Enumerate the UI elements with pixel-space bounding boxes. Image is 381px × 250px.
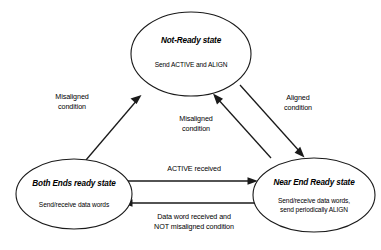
edge-label-nearend-to-both-line-2: NOT misaligned condition <box>154 222 234 231</box>
diagram-canvas: Not-Ready state Send ACTIVE and ALIGN Bo… <box>0 0 381 250</box>
state-not-ready-ellipse[interactable] <box>131 12 251 96</box>
transition-both-to-nearend <box>128 177 258 185</box>
transition-nearend-to-notready-line <box>217 98 272 159</box>
state-not-ready-title: Not-Ready state <box>161 36 222 45</box>
state-both-ends-ready-body-line-1: Send/receive data words <box>39 201 110 208</box>
edge-label-notready-to-nearend-line-1: Aligned <box>286 93 309 102</box>
edge-label-nearend-to-notready: Misaligned condition <box>179 114 212 133</box>
state-both-ends-ready-title: Both Ends ready state <box>32 179 116 188</box>
edge-label-both-to-nearend-line-1: ACTIVE received <box>167 164 221 173</box>
edge-label-notready-to-nearend: Aligned condition <box>284 93 312 112</box>
edge-label-notready-to-nearend-line-2: condition <box>284 103 312 112</box>
state-node-both-ends-ready[interactable]: Both Ends ready state Send/receive data … <box>16 159 132 229</box>
state-node-near-end-ready[interactable]: Near End Ready state Send/receive data w… <box>253 158 375 232</box>
state-both-ends-ready-ellipse[interactable] <box>16 159 132 229</box>
transition-both-to-notready-line <box>86 99 138 160</box>
transition-nearend-to-both <box>122 199 268 207</box>
transition-nearend-to-notready <box>213 94 271 159</box>
edge-label-nearend-to-both-line-1: Data word received and <box>157 212 231 221</box>
state-near-end-ready-body-line-1: Send/receive data words, <box>278 197 350 204</box>
state-near-end-ready-body-line-2: send periodically ALIGN <box>280 206 348 214</box>
edge-label-both-to-nearend: ACTIVE received <box>167 164 221 173</box>
transition-both-to-notready-arrowhead <box>131 95 142 104</box>
state-not-ready-body-line-1: Send ACTIVE and ALIGN <box>155 61 228 68</box>
state-near-end-ready-title: Near End Ready state <box>273 178 355 187</box>
edge-label-nearend-to-notready-line-2: condition <box>182 124 210 133</box>
state-diagram: Not-Ready state Send ACTIVE and ALIGN Bo… <box>0 0 381 250</box>
edge-label-both-to-notready-line-2: condition <box>58 102 86 111</box>
edge-label-both-to-notready-line-1: Misaligned <box>55 92 88 101</box>
state-near-end-ready-ellipse[interactable] <box>253 158 375 232</box>
edge-label-nearend-to-notready-line-1: Misaligned <box>179 114 212 123</box>
transition-both-to-notready <box>86 95 142 160</box>
edge-label-nearend-to-both: Data word received and NOT misaligned co… <box>154 212 234 231</box>
edge-label-both-to-notready: Misaligned condition <box>55 92 88 111</box>
state-node-not-ready[interactable]: Not-Ready state Send ACTIVE and ALIGN <box>131 12 251 96</box>
